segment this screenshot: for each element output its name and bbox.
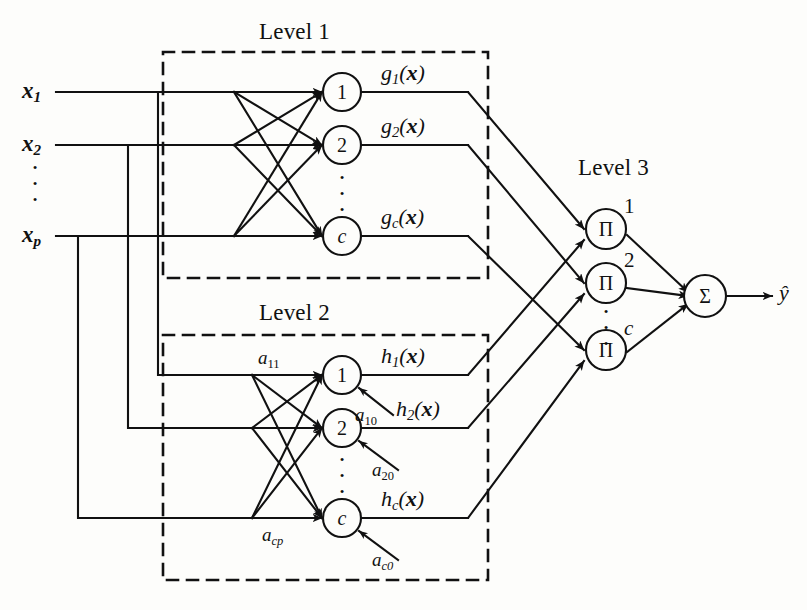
- weight-label-a11: a11: [258, 348, 280, 370]
- diagram-canvas: [0, 0, 807, 610]
- input-label-xp: xp: [22, 223, 41, 248]
- gc-arg: x: [406, 204, 417, 229]
- network-diagram: Level 1 Level 2 Level 3 x1 x2 xp ··· 1 2…: [0, 0, 807, 610]
- input-base-xp: x: [22, 222, 34, 247]
- node-label-sum: Σ: [695, 285, 715, 308]
- ac0-base: a: [372, 549, 382, 570]
- level2-vertical-dots: ···: [335, 452, 349, 500]
- ac0-sub: c0: [382, 559, 394, 573]
- level3-vertical-dots: ···: [599, 304, 613, 352]
- level2-title: Level 2: [259, 301, 330, 324]
- gc-base: g: [381, 204, 392, 229]
- h1-sub: 1: [392, 354, 399, 370]
- node-label-hc: c: [332, 507, 352, 530]
- hc-sub: c: [392, 497, 398, 513]
- h2-sub: 2: [407, 407, 414, 423]
- input-base-x1: x: [22, 78, 34, 103]
- gc-sub: c: [392, 215, 398, 231]
- index-label-pi1: 1: [624, 196, 635, 217]
- bias-label-a20: a20: [372, 460, 394, 482]
- bus-x2-to-level2: [128, 145, 310, 428]
- a10-sub: 10: [365, 414, 378, 428]
- index-label-pi2: 2: [624, 250, 635, 271]
- path-gc-to-pic: [350, 236, 584, 350]
- g2-sub: 2: [392, 124, 399, 140]
- a11-sub: 11: [268, 357, 280, 371]
- h1-base: h: [381, 343, 392, 368]
- node-label-pi2: Π: [596, 272, 616, 295]
- g1-base: g: [381, 60, 392, 85]
- index-label-pic: c: [624, 318, 633, 339]
- bus-x1-to-level2: [158, 92, 310, 375]
- bias-label-a10: a10: [355, 405, 377, 427]
- output-label-h1: h1(x): [381, 345, 425, 370]
- input-sub-xp: p: [34, 232, 42, 249]
- output-label-g2: g2(x): [381, 115, 425, 140]
- input-vertical-dots: ···: [28, 160, 42, 208]
- h2-arg: x: [422, 396, 433, 421]
- path-pic-to-sum: [627, 304, 688, 352]
- output-label-hc: hc(x): [381, 488, 424, 513]
- level1-vertical-dots: ···: [335, 170, 349, 218]
- a11-base: a: [258, 347, 268, 368]
- hc-arg: x: [406, 486, 417, 511]
- level3-title: Level 3: [578, 156, 649, 179]
- input-sub-x1: 1: [34, 88, 42, 105]
- node-label-h1: 1: [332, 364, 352, 387]
- a20-base: a: [372, 459, 382, 480]
- h2-base: h: [396, 396, 407, 421]
- node-label-g1: 1: [332, 81, 352, 104]
- path-pi1-to-sum: [627, 235, 688, 292]
- level1-title: Level 1: [259, 20, 330, 43]
- hc-base: h: [381, 486, 392, 511]
- output-label-g1: g1(x): [381, 62, 425, 87]
- output-label-gc: gc(x): [381, 206, 424, 231]
- weight-label-acp: acp: [262, 525, 283, 547]
- acp-sub: cp: [272, 534, 284, 548]
- acp-base: a: [262, 524, 272, 545]
- path-pi2-to-sum: [627, 288, 688, 296]
- g2-arg: x: [407, 113, 418, 138]
- g2-base: g: [381, 113, 392, 138]
- bias-label-ac0: ac0: [372, 550, 393, 572]
- output-label-yhat: ŷ: [779, 282, 789, 304]
- g1-sub: 1: [392, 71, 399, 87]
- node-label-g2: 2: [332, 134, 352, 157]
- input-label-x1: x1: [22, 79, 41, 104]
- h1-arg: x: [407, 343, 418, 368]
- output-label-h2: h2(x): [396, 398, 440, 423]
- node-label-h2: 2: [332, 417, 352, 440]
- g1-arg: x: [407, 60, 418, 85]
- a10-base: a: [355, 404, 365, 425]
- a20-sub: 20: [382, 469, 395, 483]
- node-label-gc: c: [332, 225, 352, 248]
- node-label-pi1: Π: [596, 218, 616, 241]
